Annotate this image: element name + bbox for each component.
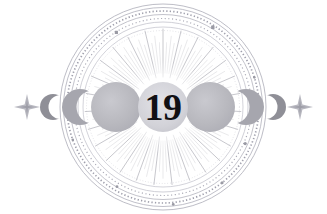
marker-dot-e-upper [253, 76, 256, 79]
marker-dot-e-lower [244, 142, 247, 145]
day-number-label: 19 [145, 86, 182, 128]
marker-dot-sw [116, 185, 119, 188]
moon-crescent-icon-right [256, 90, 290, 124]
center-day-marker: 19 [138, 82, 188, 132]
marker-dot-ne [211, 26, 214, 29]
emblem-canvas: 19 [0, 0, 327, 214]
celestial-emblem: 19 [0, 0, 327, 214]
moon-full-icon-left [91, 82, 141, 132]
sparkle-icon-right [287, 94, 313, 120]
marker-dot-w [71, 139, 74, 142]
marker-dot-nw [115, 31, 118, 34]
marker-dot-s [172, 203, 175, 206]
marker-dot-se [221, 181, 224, 184]
